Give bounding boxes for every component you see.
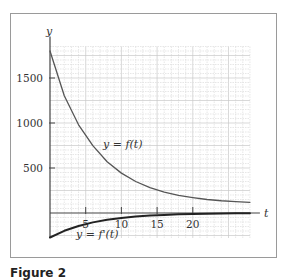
x-tick-label: 15 [150,218,163,230]
curve-label-f: y = f(t) [102,138,143,151]
y-tick-label: 500 [23,162,43,174]
y-axis-label: y [45,25,53,38]
grid [50,47,250,239]
x-tick-label: 20 [186,218,199,230]
y-tick-label: 1500 [16,72,43,84]
y-tick-label: 1000 [16,117,43,129]
x-axis-label: t [264,207,269,220]
curve-label-f-prime: y = f'(t) [75,228,119,241]
figure-caption: Figure 2 [10,266,66,280]
